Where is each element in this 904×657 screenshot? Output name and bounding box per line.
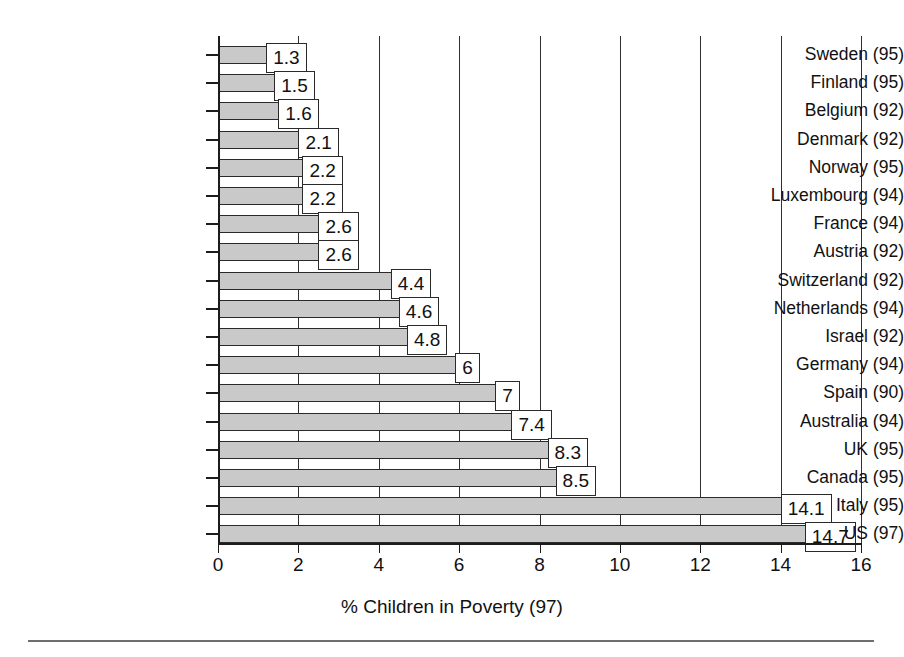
y-tick: [206, 167, 218, 169]
x-tick-label-8: 8: [510, 554, 570, 576]
y-axis-line: [218, 36, 220, 545]
x-tick-6: [459, 545, 460, 553]
children-in-poverty-bar-chart: 1.31.51.62.12.22.22.62.64.44.64.8677.48.…: [0, 0, 904, 657]
x-tick-0: [218, 545, 219, 553]
bar: [218, 413, 515, 431]
bar-value-label: 7.4: [511, 410, 551, 440]
bar-value-label: 7: [495, 381, 520, 411]
category-label: UK (95): [708, 441, 904, 458]
category-label: Italy (95): [708, 497, 904, 514]
category-label: Australia (94): [708, 413, 904, 430]
x-tick-4: [379, 545, 380, 553]
x-tick-label-6: 6: [429, 554, 489, 576]
category-label: Luxembourg (94): [708, 187, 904, 204]
gridline-x-12: [700, 36, 701, 543]
bar-value-label: 8.5: [556, 466, 596, 496]
bar: [218, 356, 459, 374]
category-label: Switzerland (92): [708, 272, 904, 289]
bar: [218, 328, 411, 346]
bar: [218, 74, 278, 92]
y-tick: [206, 533, 218, 535]
bar: [218, 441, 552, 459]
bar: [218, 159, 306, 177]
x-tick-8: [540, 545, 541, 553]
bar: [218, 243, 322, 261]
category-label: Canada (95): [708, 469, 904, 486]
x-tick-2: [298, 545, 299, 553]
bar-value-label: 4.4: [391, 269, 431, 299]
bar-value-label: 1.6: [278, 99, 318, 129]
x-tick-14: [781, 545, 782, 553]
category-label: Israel (92): [708, 328, 904, 345]
bar-value-label: 1.5: [274, 71, 314, 101]
gridline-x-8: [540, 36, 541, 543]
category-label: Denmark (92): [708, 131, 904, 148]
x-axis-title: % Children in Poverty (97): [0, 596, 904, 618]
y-tick: [206, 110, 218, 112]
y-tick: [206, 421, 218, 423]
y-tick: [206, 505, 218, 507]
category-label: Netherlands (94): [708, 300, 904, 317]
bar: [218, 215, 322, 233]
bar-value-label: 2.6: [318, 212, 358, 242]
bar: [218, 300, 403, 318]
bar: [218, 46, 270, 64]
x-tick-label-0: 0: [188, 554, 248, 576]
y-tick: [206, 139, 218, 141]
bar-value-label: 2.2: [302, 156, 342, 186]
y-tick: [206, 54, 218, 56]
bar: [218, 102, 282, 120]
bar: [218, 384, 499, 402]
x-tick-label-2: 2: [268, 554, 328, 576]
bar: [218, 497, 785, 515]
category-label: US (97): [708, 525, 904, 542]
x-tick-label-14: 14: [751, 554, 811, 576]
category-label: Belgium (92): [708, 102, 904, 119]
y-tick: [206, 308, 218, 310]
y-tick: [206, 251, 218, 253]
x-tick-16: [861, 545, 862, 553]
gridline-x-10: [620, 36, 621, 543]
category-label: Finland (95): [708, 74, 904, 91]
x-tick-label-16: 16: [831, 554, 891, 576]
gridline-x-6: [459, 36, 460, 543]
bar: [218, 272, 395, 290]
x-tick-12: [700, 545, 701, 553]
y-tick: [206, 280, 218, 282]
bar: [218, 187, 306, 205]
category-label: Sweden (95): [708, 46, 904, 63]
x-tick-label-4: 4: [349, 554, 409, 576]
bar-value-label: 1.3: [266, 43, 306, 73]
y-tick: [206, 392, 218, 394]
page-divider-rule: [28, 640, 874, 642]
x-tick-10: [620, 545, 621, 553]
bar: [218, 469, 560, 487]
category-label: France (94): [708, 215, 904, 232]
y-tick: [206, 223, 218, 225]
y-tick: [206, 195, 218, 197]
x-tick-label-10: 10: [590, 554, 650, 576]
x-tick-label-12: 12: [670, 554, 730, 576]
category-label: Germany (94): [708, 356, 904, 373]
y-tick: [206, 336, 218, 338]
bar-value-label: 2.1: [298, 128, 338, 158]
bar-value-label: 2.2: [302, 184, 342, 214]
category-label: Austria (92): [708, 243, 904, 260]
bar-value-label: 8.3: [548, 438, 588, 468]
y-tick: [206, 477, 218, 479]
bar-value-label: 4.8: [407, 325, 447, 355]
y-tick: [206, 449, 218, 451]
y-tick: [206, 82, 218, 84]
category-label: Norway (95): [708, 159, 904, 176]
bar: [218, 131, 302, 149]
category-label: Spain (90): [708, 384, 904, 401]
bar-value-label: 4.6: [399, 297, 439, 327]
y-tick: [206, 364, 218, 366]
bar-value-label: 2.6: [318, 240, 358, 270]
bar-value-label: 6: [455, 353, 480, 383]
